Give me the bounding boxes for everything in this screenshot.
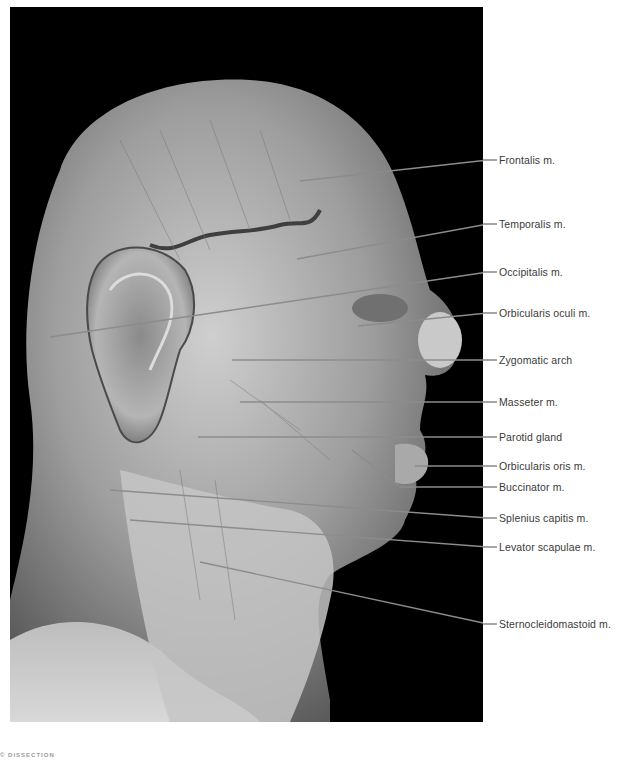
photo-border-top xyxy=(0,0,620,7)
photo-border-bottom xyxy=(0,722,620,765)
label-splenius-capitis: Splenius capitis m. xyxy=(499,512,588,524)
label-temporalis: Temporalis m. xyxy=(499,218,566,230)
label-frontalis: Frontalis m. xyxy=(499,154,555,166)
label-parotid-gland: Parotid gland xyxy=(499,431,562,443)
label-margin xyxy=(483,0,620,765)
label-buccinator: Buccinator m. xyxy=(499,481,565,493)
eye-region xyxy=(352,294,408,322)
label-orbicularis-oris: Orbicularis oris m. xyxy=(499,460,586,472)
dissection-figure xyxy=(0,0,620,765)
label-levator-scapulae: Levator scapulae m. xyxy=(499,541,595,553)
label-masseter: Masseter m. xyxy=(499,396,558,408)
figure-caption: © DISSECTION xyxy=(0,752,55,758)
photo-border-left xyxy=(0,0,10,765)
label-sternocleidomastoid: Sternocleidomastoid m. xyxy=(499,618,611,630)
label-occipitalis: Occipitalis m. xyxy=(499,266,563,278)
label-orbicularis-oculi: Orbicularis oculi m. xyxy=(499,307,590,319)
label-zygomatic-arch: Zygomatic arch xyxy=(499,354,572,366)
